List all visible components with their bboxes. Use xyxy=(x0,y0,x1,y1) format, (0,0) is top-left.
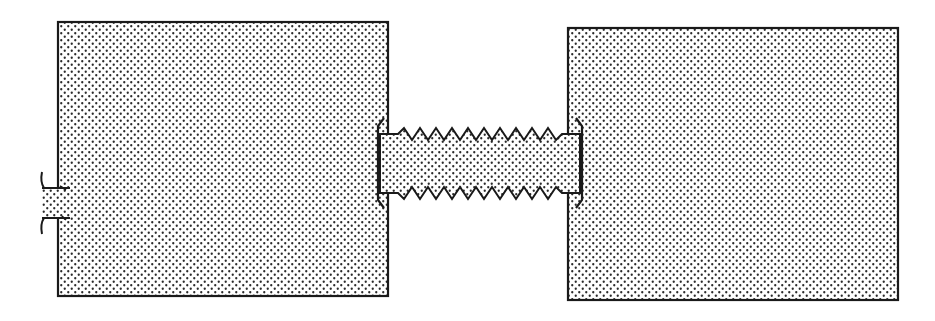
right-block xyxy=(568,28,898,300)
bracket-top-icon xyxy=(41,172,52,188)
bracket-bottom-icon xyxy=(41,218,52,234)
patent-diagram xyxy=(0,0,935,321)
threaded-rod xyxy=(378,118,582,208)
left-block xyxy=(58,22,388,296)
